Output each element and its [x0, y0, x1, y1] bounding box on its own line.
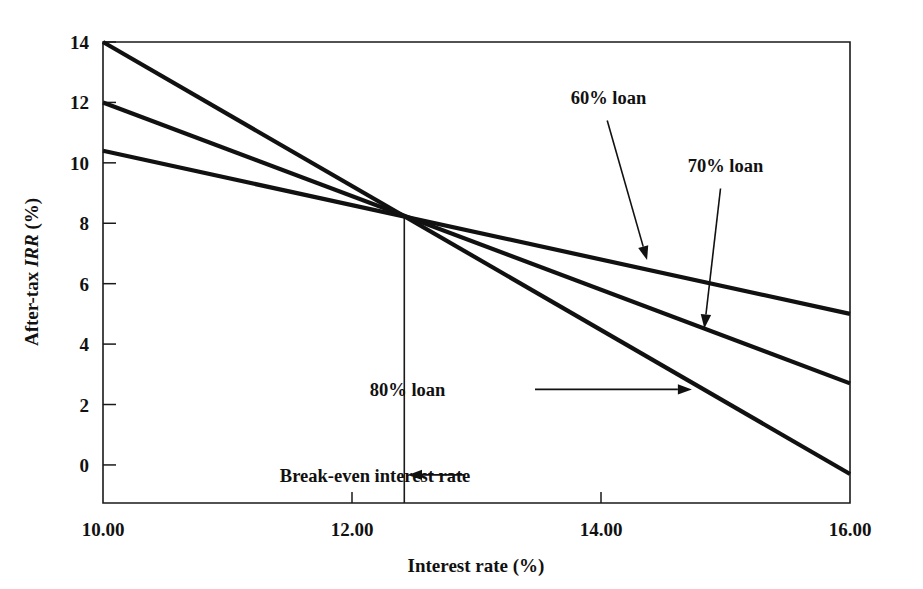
annotation-label: Break-even interest rate	[280, 466, 470, 486]
annotation-break-even-interest-rate: Break-even interest rate	[280, 466, 470, 486]
y-tick-label: 2	[80, 395, 90, 416]
x-tick-label: 12.00	[331, 519, 374, 540]
y-tick-label: 10	[70, 153, 89, 174]
x-tick-label: 14.00	[580, 519, 623, 540]
figure-container: 10.0012.0014.0016.00 02468101214 60% loa…	[0, 0, 923, 589]
y-tick-label: 4	[80, 334, 90, 355]
annotation-label: 60% loan	[571, 88, 647, 108]
y-axis-tick-labels: 02468101214	[70, 32, 90, 476]
y-axis-title: After-tax IRR (%)	[21, 198, 43, 346]
x-axis-title: Interest rate (%)	[408, 555, 545, 577]
y-tick-label: 6	[80, 274, 90, 295]
x-axis-tick-labels: 10.0012.0014.0016.00	[82, 519, 872, 540]
y-axis-title-suffix: (%)	[21, 198, 43, 234]
svg-text:After-tax IRR (%): After-tax IRR (%)	[21, 198, 43, 346]
x-tick-label: 10.00	[82, 519, 125, 540]
y-axis-title-italic: IRR	[21, 234, 42, 268]
y-tick-label: 14	[70, 32, 90, 53]
annotation-label: 80% loan	[370, 380, 446, 400]
y-tick-label: 8	[80, 213, 90, 234]
break-even-interest-rate-chart: 10.0012.0014.0016.00 02468101214 60% loa…	[0, 0, 923, 589]
annotation-label: 70% loan	[688, 156, 764, 176]
x-tick-label: 16.00	[829, 519, 872, 540]
y-tick-label: 12	[70, 92, 89, 113]
y-tick-label: 0	[80, 455, 90, 476]
plot-background	[103, 42, 850, 503]
plot-area: 10.0012.0014.0016.00 02468101214 60% loa…	[70, 32, 871, 540]
y-axis-title-prefix: After-tax	[21, 267, 42, 346]
